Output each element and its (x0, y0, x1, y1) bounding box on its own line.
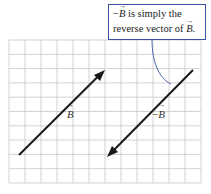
label-b: B (67, 108, 74, 120)
callout-pointer (152, 40, 171, 84)
vector-b-symbol: B (158, 108, 165, 120)
vector-b-symbol: B (67, 108, 74, 120)
callout-text: is simply the (125, 8, 181, 19)
vector-b-symbol: B (119, 6, 125, 21)
callout-line-2: reverse vector of B. (113, 21, 205, 36)
grid (9, 40, 201, 183)
callout-box: −B is simply the reverse vector of B. (108, 4, 206, 40)
callout-text: reverse vector of (113, 23, 186, 34)
vector-b-symbol: B (186, 21, 192, 36)
label-neg-b: −B (152, 108, 165, 120)
